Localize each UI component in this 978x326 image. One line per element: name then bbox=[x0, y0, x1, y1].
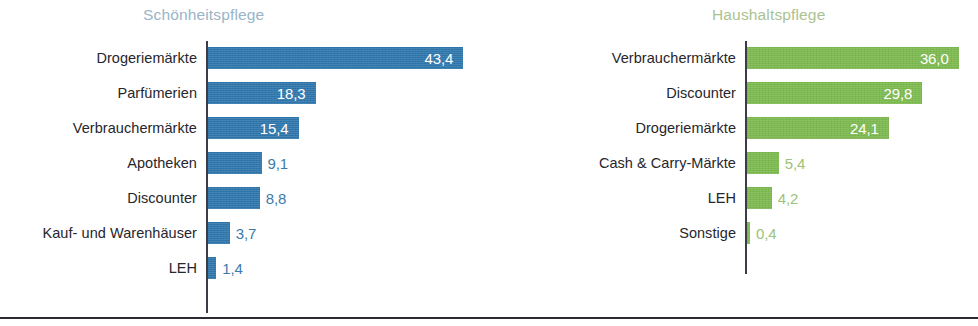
bar-row: Kauf- und Warenhäuser3,7 bbox=[0, 222, 489, 244]
bar-value-label: 24,1 bbox=[850, 120, 879, 137]
category-label: Parfümerien bbox=[117, 85, 197, 101]
bar-value-label: 9,1 bbox=[268, 155, 289, 172]
bar-row: Verbrauchermärkte15,4 bbox=[0, 117, 489, 139]
bar-row: LEH1,4 bbox=[0, 257, 489, 279]
bar-value-label: 5,4 bbox=[785, 155, 806, 172]
bar-value-label: 18,3 bbox=[277, 85, 306, 102]
bar-row: Apotheken9,1 bbox=[0, 152, 489, 174]
chart-title-schoenheitspflege: Schönheitspflege bbox=[143, 6, 264, 24]
bar-value-label: 36,0 bbox=[920, 50, 949, 67]
bar bbox=[208, 222, 230, 244]
bar-row: Drogeriemärkte24,1 bbox=[489, 117, 978, 139]
bar bbox=[208, 152, 262, 174]
bar-value-label: 15,4 bbox=[260, 120, 289, 137]
bar-row: LEH4,2 bbox=[489, 187, 978, 209]
bar-value-label: 29,8 bbox=[883, 85, 912, 102]
category-label: Apotheken bbox=[127, 155, 197, 171]
bar-row: Discounter8,8 bbox=[0, 187, 489, 209]
chart-panel-haushaltspflege: Haushaltspflege Verbrauchermärkte36,0Dis… bbox=[489, 0, 978, 326]
category-label: Drogeriemärkte bbox=[96, 50, 197, 66]
bar-row: Discounter29,8 bbox=[489, 82, 978, 104]
category-label: LEH bbox=[169, 260, 197, 276]
bar bbox=[208, 257, 216, 279]
bar-row: Sonstige0,4 bbox=[489, 222, 978, 244]
category-label: Discounter bbox=[666, 85, 736, 101]
bar-value-label: 43,4 bbox=[424, 50, 453, 67]
bar-row: Verbrauchermärkte36,0 bbox=[489, 47, 978, 69]
bar bbox=[208, 187, 260, 209]
bar bbox=[747, 152, 779, 174]
bar bbox=[747, 222, 750, 244]
chart-title-haushaltspflege: Haushaltspflege bbox=[712, 6, 825, 24]
category-label: Cash & Carry-Märkte bbox=[599, 155, 736, 171]
bar-value-label: 4,2 bbox=[778, 190, 799, 207]
dual-bar-chart-figure: Schönheitspflege Drogeriemärkte43,4Parfü… bbox=[0, 0, 978, 326]
category-label: LEH bbox=[708, 190, 736, 206]
bar-row: Parfümerien18,3 bbox=[0, 82, 489, 104]
chart-panel-schoenheitspflege: Schönheitspflege Drogeriemärkte43,4Parfü… bbox=[0, 0, 489, 326]
category-label: Kauf- und Warenhäuser bbox=[43, 225, 197, 241]
bottom-rule bbox=[0, 317, 978, 319]
bar-value-label: 3,7 bbox=[236, 225, 257, 242]
bar-value-label: 1,4 bbox=[222, 260, 243, 277]
category-label: Verbrauchermärkte bbox=[73, 120, 197, 136]
category-label: Verbrauchermärkte bbox=[612, 50, 736, 66]
category-label: Discounter bbox=[127, 190, 197, 206]
bar-value-label: 0,4 bbox=[756, 225, 777, 242]
bar bbox=[747, 187, 772, 209]
category-label: Sonstige bbox=[679, 225, 736, 241]
bar-row: Drogeriemärkte43,4 bbox=[0, 47, 489, 69]
bar-value-label: 8,8 bbox=[266, 190, 287, 207]
bar-row: Cash & Carry-Märkte5,4 bbox=[489, 152, 978, 174]
category-label: Drogeriemärkte bbox=[635, 120, 736, 136]
